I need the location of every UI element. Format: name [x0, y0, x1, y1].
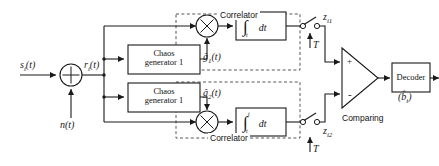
input-signal-label: si(t) [20, 60, 35, 73]
integrator-bottom-symbol: t ∫ t dt [243, 113, 266, 132]
ghat1-label: ĝ1(t) [203, 52, 221, 65]
chaos-gen-2-line2: generator 1 [145, 95, 183, 105]
noise-signal-label: n(t) [60, 120, 74, 130]
sampler-top-right-terminal [314, 23, 319, 28]
chaos-generator-2-label: Chaos generator 1 [128, 87, 200, 105]
sampler-bottom-right-terminal [314, 119, 319, 124]
correlator-bottom-title: Correlator [208, 133, 250, 143]
z-i1-label: zi1 [323, 12, 332, 25]
chaos-generator-1-label: Chaos generator 1 [128, 49, 200, 67]
decoder-label: Decoder [392, 73, 430, 82]
bus-junction-dot-2 [102, 57, 105, 60]
integrator-bottom-upper-limit: t [248, 111, 250, 117]
comparator-minus-sign: - [348, 89, 352, 100]
comparator-plus-sign: + [347, 57, 352, 66]
comparator-caption: Comparing [340, 113, 386, 123]
integrator-bottom-dt: dt [259, 118, 267, 129]
integrator-top-dt: dt [259, 22, 267, 33]
sampler-bottom-blade [304, 113, 316, 121]
z-i2-label: zi2 [323, 126, 332, 139]
sample-clock-bottom-label: T [313, 144, 319, 154]
bus-junction-dot [102, 73, 105, 76]
decoder-output-label: (b̂i) [398, 92, 412, 105]
bus-junction-dot-3 [102, 95, 105, 98]
integrator-top-lower-limit: t [246, 32, 248, 38]
correlator-top-title: Correlator [218, 10, 260, 20]
z2-to-comparator-path [319, 94, 340, 122]
z1-to-comparator-path [319, 26, 340, 62]
block-diagram-figure: si(t) n(t) ri(t) Chaos generator 1 Chaos… [0, 0, 439, 166]
received-signal-label: ri(t) [84, 60, 99, 73]
sampler-top-blade [304, 17, 316, 25]
ghat2-label: ĝ2(t) [203, 88, 221, 101]
sample-clock-top-label: T [313, 40, 319, 50]
chaos-gen-1-line2: generator 1 [145, 57, 183, 67]
